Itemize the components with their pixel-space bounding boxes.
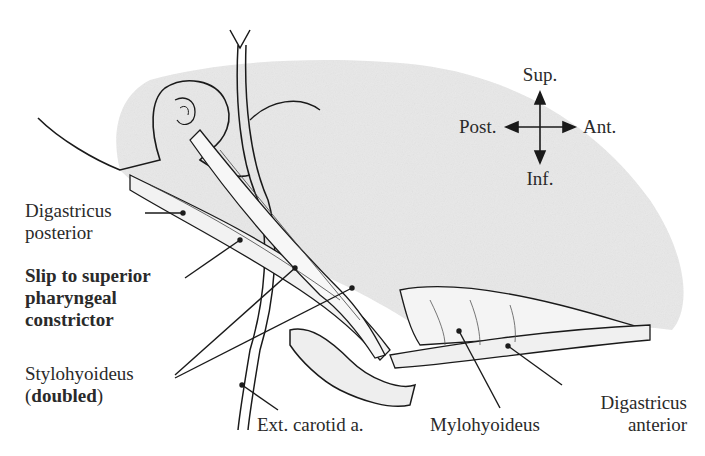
compass-inf-label: Inf. [520,168,560,190]
compass-post-label: Post. [459,116,497,138]
label-stylohyoideus: Stylohyoideus (doubled) [25,363,134,407]
label-slip-superior-pharyngeal-constrictor: Slip to superior pharyngeal constrictor [25,265,151,331]
label-ext-carotid: Ext. carotid a. [257,414,364,436]
anatomy-figure: Sup. Inf. Post. Ant. Digastricus posteri… [0,0,705,456]
label-mylohyoideus: Mylohyoideus [430,414,540,436]
label-digastricus-posterior: Digastricus posterior [25,200,112,244]
compass-ant-label: Ant. [583,116,616,138]
label-digastricus-anterior: Digastricus anterior [580,392,687,436]
compass-sup-label: Sup. [520,64,560,86]
